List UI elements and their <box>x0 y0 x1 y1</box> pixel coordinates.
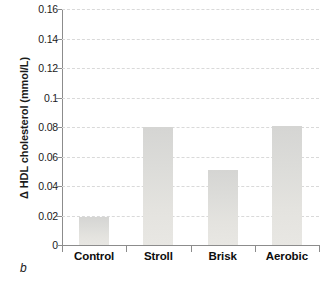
y-axis-tick-mark <box>56 216 62 217</box>
panel-letter: b <box>20 261 27 275</box>
y-axis-tick-mark <box>56 9 62 10</box>
x-axis-tick-mark <box>319 246 320 252</box>
x-axis-label-aerobic: Aerobic <box>266 250 308 262</box>
x-axis-label-control: Control <box>74 250 114 262</box>
x-axis-tick-mark <box>62 246 63 252</box>
y-axis-tick-mark <box>56 39 62 40</box>
y-axis-tick-mark <box>56 127 62 128</box>
x-axis-tick-mark <box>126 246 127 252</box>
y-axis-tick-mark <box>56 186 62 187</box>
bar-aerobic <box>272 126 302 245</box>
x-axis-category-labels: ControlStrollBriskAerobic <box>62 250 319 268</box>
y-axis-tick-mark <box>56 68 62 69</box>
figure-panel-b: Δ HDL cholesterol (mmol/L) 00.020.040.06… <box>0 0 333 281</box>
y-axis-tick-mark <box>56 157 62 158</box>
bar-stroll <box>143 127 173 245</box>
y-axis-tick-mark <box>56 98 62 99</box>
bar-control <box>79 217 109 245</box>
x-axis-label-brisk: Brisk <box>208 250 236 262</box>
plot-area <box>62 9 319 245</box>
bar-brisk <box>208 170 238 245</box>
x-axis-tick-mark <box>255 246 256 252</box>
x-axis-label-stroll: Stroll <box>144 250 173 262</box>
y-axis-tick-labels: 00.020.040.060.080.10.120.140.16 <box>22 9 58 245</box>
bar-series <box>62 9 319 245</box>
x-axis-tick-mark <box>191 246 192 252</box>
